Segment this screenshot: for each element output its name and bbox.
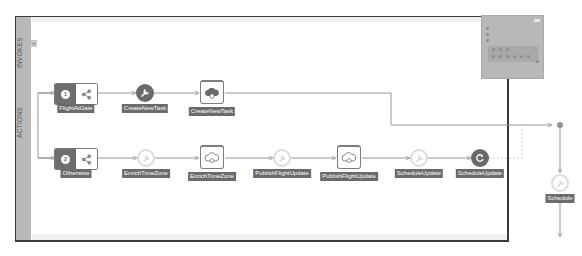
minimap-node	[486, 33, 489, 36]
minimap-node	[499, 55, 502, 58]
map-action-schedule[interactable]: Schedule	[551, 174, 569, 192]
minimap-node	[486, 39, 489, 42]
wrench-icon	[415, 154, 424, 163]
canvas-minimap[interactable]	[481, 15, 544, 79]
node-label: PublishFlightUpdate	[320, 172, 378, 181]
minimap-close-icon[interactable]	[534, 19, 540, 22]
node-label: ScheduleUpdate	[395, 169, 443, 178]
minimap-viewport[interactable]	[488, 46, 538, 62]
schedule-update-node[interactable]: ScheduleUpdate	[471, 149, 489, 167]
refresh-icon	[475, 153, 485, 163]
minimap-node	[486, 27, 489, 30]
minimap-node	[536, 60, 539, 63]
router-route-2[interactable]: 2 Otherwise	[54, 148, 98, 170]
map-action-publish-flight-update[interactable]: PublishFlightUpdate	[273, 149, 291, 167]
cloud-icon	[341, 151, 357, 165]
map-action-schedule-update[interactable]: ScheduleUpdate	[410, 149, 428, 167]
node-label: ScheduleUpdate	[456, 169, 504, 178]
share-icon	[81, 89, 92, 100]
minimap-node	[492, 55, 495, 58]
wrench-icon	[142, 154, 151, 163]
cloud-icon	[204, 86, 220, 100]
node-label: Otherwise	[60, 169, 91, 178]
invoke-publish-flight-update[interactable]: PublishFlightUpdate	[337, 145, 361, 169]
wrench-icon	[278, 154, 287, 163]
minimap-node	[506, 55, 509, 58]
cloud-icon	[204, 151, 220, 165]
minimap-node	[513, 55, 516, 58]
wrench-icon	[556, 179, 565, 188]
node-label: PublishFlightUpdate	[253, 169, 311, 178]
router-route-1[interactable]: 1 FlightAtGate	[54, 83, 98, 105]
route-number-badge: 2	[61, 155, 70, 164]
minimap-node	[492, 48, 495, 51]
node-label: CreateNewTask	[122, 104, 168, 113]
node-label: EnrichTimeZone	[188, 172, 236, 181]
wrench-icon	[140, 88, 150, 98]
minimap-node	[527, 55, 530, 58]
route-number-badge: 1	[61, 90, 70, 99]
node-label: FlightAtGate	[57, 104, 94, 113]
map-action-create-new-task[interactable]: CreateNewTask	[136, 84, 154, 102]
invoke-create-new-task[interactable]: CreateNewTask	[200, 80, 224, 104]
map-action-enrich-time-zone[interactable]: EnrichTimeZone	[137, 149, 155, 167]
node-label: Schedule	[545, 194, 574, 203]
minimap-node	[520, 55, 523, 58]
node-label: EnrichTimeZone	[122, 169, 170, 178]
minimap-node	[506, 48, 509, 51]
node-label: CreateNewTask	[189, 107, 235, 116]
invoke-enrich-time-zone[interactable]: EnrichTimeZone	[200, 145, 224, 169]
share-icon	[81, 154, 92, 165]
minimap-node	[499, 48, 502, 51]
